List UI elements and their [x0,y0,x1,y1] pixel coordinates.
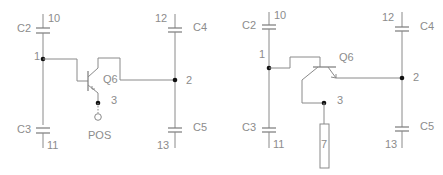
transistor-q6-right[interactable] [302,67,402,80]
wire-node1-base [43,59,88,81]
capacitor-c4-right[interactable] [395,12,409,127]
node-1-label: 1 [34,50,40,62]
wire-node1-collector-right [269,57,320,68]
node-3-label: 3 [111,94,117,106]
pin-11-right: 11 [273,138,284,150]
left-circuit: C2 10 C3 11 1 Q6 3 POS [17,12,207,151]
capacitor-c2[interactable] [36,14,50,125]
node-3-label-right: 3 [337,94,343,106]
node-2-dot-right[interactable] [400,76,405,81]
node-2-dot[interactable] [173,78,178,83]
pin-11: 11 [47,139,58,151]
label-q6: Q6 [103,73,118,85]
capacitor-c5[interactable] [168,128,182,148]
label-q6-right: Q6 [339,51,354,63]
capacitor-c4[interactable] [168,14,182,128]
label-c4: C4 [193,21,207,33]
pin-12-right: 12 [382,11,394,23]
pin-13: 13 [157,139,169,151]
pin-13-right: 13 [385,138,397,150]
node-2-label: 2 [186,74,192,86]
label-c5: C5 [193,121,207,133]
node-2-label-right: 2 [413,71,419,83]
pin-10: 10 [48,12,60,24]
label-c2: C2 [17,22,31,34]
pin-10-right: 10 [274,9,286,21]
schematic-canvas: C2 10 C3 11 1 Q6 3 POS [0,0,443,175]
probe-box-7[interactable]: 7 [320,124,329,168]
pin-12: 12 [155,12,167,24]
label-c3: C3 [17,123,31,135]
probe-box-label: 7 [321,138,327,150]
label-c2-right: C2 [242,19,256,31]
wire-base-node3-right [302,80,324,103]
label-c5-right: C5 [420,120,434,132]
transistor-q6[interactable] [88,58,98,103]
pos-terminal[interactable] [95,114,102,121]
node-1-label-right: 1 [259,48,265,60]
right-circuit: C2 10 1 C3 11 Q6 3 7 [242,9,434,168]
label-c3-right: C3 [242,121,256,133]
pos-label: POS [88,129,111,141]
label-c4-right: C4 [420,20,434,32]
